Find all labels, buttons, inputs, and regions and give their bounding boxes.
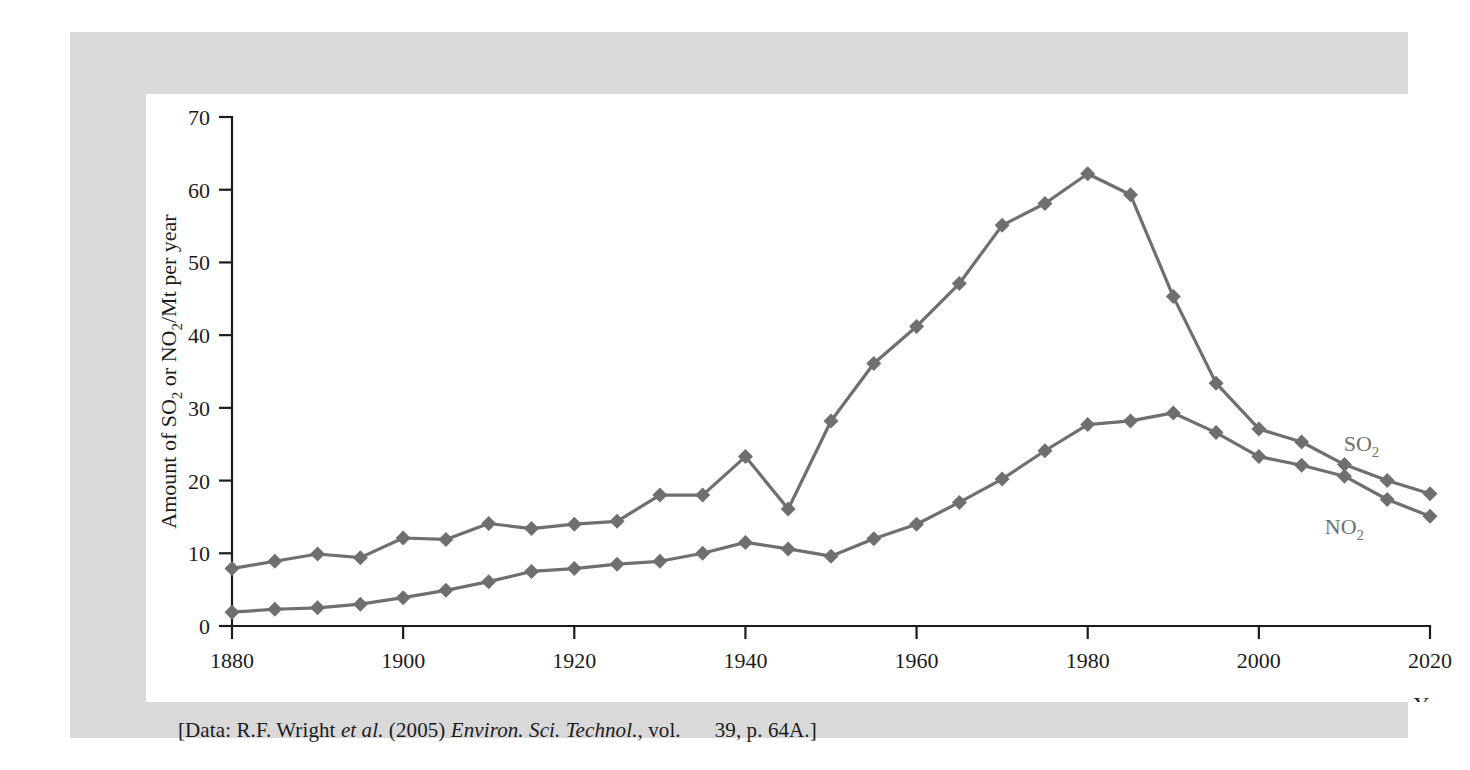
data-point-marker xyxy=(310,547,325,562)
x-tick-label: 1880 xyxy=(210,648,254,673)
data-point-marker xyxy=(396,531,411,546)
data-point-marker xyxy=(610,514,625,529)
series-label-subscript: 2 xyxy=(1357,527,1365,543)
data-point-marker xyxy=(481,574,496,589)
data-point-marker xyxy=(438,532,453,547)
y-tick-label: 10 xyxy=(188,541,210,566)
series-line-no2 xyxy=(232,413,1430,612)
y-tick-label: 70 xyxy=(188,105,210,130)
data-point-marker xyxy=(1209,425,1224,440)
data-point-marker xyxy=(1123,413,1138,428)
line-chart: 010203040506070 188019001920194019601980… xyxy=(146,94,1465,702)
y-tick-label: 30 xyxy=(188,396,210,421)
data-point-marker xyxy=(952,495,967,510)
series-label-no2: NO2 xyxy=(1325,514,1364,543)
x-tick-label: 1960 xyxy=(895,648,939,673)
data-point-marker xyxy=(396,590,411,605)
data-point-marker xyxy=(866,531,881,546)
y-axis-ticks: 010203040506070 xyxy=(188,105,232,639)
data-point-marker xyxy=(652,554,667,569)
y-axis-title-text: Amount of SO xyxy=(156,399,181,529)
data-point-marker xyxy=(1166,289,1181,304)
y-axis-title-text: or NO xyxy=(156,331,181,392)
data-point-marker xyxy=(781,541,796,556)
data-point-marker xyxy=(310,600,325,615)
data-point-marker xyxy=(1423,486,1438,501)
x-tick-label: 2020 xyxy=(1408,648,1452,673)
x-tick-label: 1920 xyxy=(552,648,596,673)
data-point-marker xyxy=(652,488,667,503)
data-point-marker xyxy=(353,550,368,565)
series-label-subscript: 2 xyxy=(1372,444,1380,460)
y-tick-label: 60 xyxy=(188,178,210,203)
data-point-marker xyxy=(267,554,282,569)
x-tick-label: 1940 xyxy=(723,648,767,673)
data-point-marker xyxy=(225,605,240,620)
data-point-marker xyxy=(567,517,582,532)
caption-pages: 39, p. 64A.] xyxy=(715,718,817,742)
data-point-marker xyxy=(1123,187,1138,202)
x-tick-label: 2000 xyxy=(1237,648,1281,673)
x-axis-title: Year xyxy=(1413,692,1454,702)
data-point-marker xyxy=(738,535,753,550)
y-axis-title-subscript: 2 xyxy=(169,323,185,331)
caption-prefix: [Data: R.F. Wright xyxy=(178,718,341,742)
data-point-marker xyxy=(267,602,282,617)
figure-caption: [Data: R.F. Wright et al. (2005) Environ… xyxy=(178,718,817,743)
data-point-marker xyxy=(225,561,240,576)
series-label-so2: SO2 xyxy=(1344,431,1380,460)
data-point-marker xyxy=(1294,458,1309,473)
series-inline-labels: SO2NO2 xyxy=(1325,431,1380,543)
data-point-marker xyxy=(524,564,539,579)
y-axis-title-subscript: 2 xyxy=(169,392,185,400)
x-axis-ticks: 18801900192019401960198020002020 xyxy=(210,626,1452,673)
y-tick-label: 50 xyxy=(188,250,210,275)
caption-journal: Environ. Sci. Technol. xyxy=(451,718,638,742)
y-tick-label: 20 xyxy=(188,469,210,494)
y-tick-label: 40 xyxy=(188,323,210,348)
y-axis-title-text: /Mt per year xyxy=(156,214,181,323)
plot-card: 010203040506070 188019001920194019601980… xyxy=(146,94,1465,702)
series-line-so2 xyxy=(232,174,1430,569)
data-point-marker xyxy=(1251,449,1266,464)
series-label-text: SO xyxy=(1344,431,1372,456)
y-axis-title: Amount of SO2 or NO2/Mt per year xyxy=(156,214,185,529)
data-point-marker xyxy=(1294,435,1309,450)
data-point-marker xyxy=(695,546,710,561)
data-point-marker xyxy=(353,597,368,612)
data-point-marker xyxy=(481,516,496,531)
caption-year: (2005) xyxy=(383,718,450,742)
data-point-marker xyxy=(610,557,625,572)
y-tick-label: 0 xyxy=(199,614,210,639)
data-point-marker xyxy=(1423,509,1438,524)
data-point-marker xyxy=(824,549,839,564)
data-point-marker xyxy=(438,583,453,598)
data-point-marker xyxy=(1380,473,1395,488)
x-tick-label: 1980 xyxy=(1066,648,1110,673)
caption-vol: , vol. xyxy=(638,718,681,742)
data-point-marker xyxy=(1166,405,1181,420)
caption-etal: et al. xyxy=(341,718,384,742)
data-point-marker xyxy=(909,517,924,532)
data-point-marker xyxy=(567,561,582,576)
figure-root: 010203040506070 188019001920194019601980… xyxy=(0,0,1470,770)
figure-panel: 010203040506070 188019001920194019601980… xyxy=(70,32,1408,738)
data-point-marker xyxy=(1380,492,1395,507)
data-series-group xyxy=(225,166,1438,619)
series-label-text: NO xyxy=(1325,514,1357,539)
data-point-marker xyxy=(1080,417,1095,432)
data-point-marker xyxy=(1337,469,1352,484)
x-tick-label: 1900 xyxy=(381,648,425,673)
data-point-marker xyxy=(524,521,539,536)
